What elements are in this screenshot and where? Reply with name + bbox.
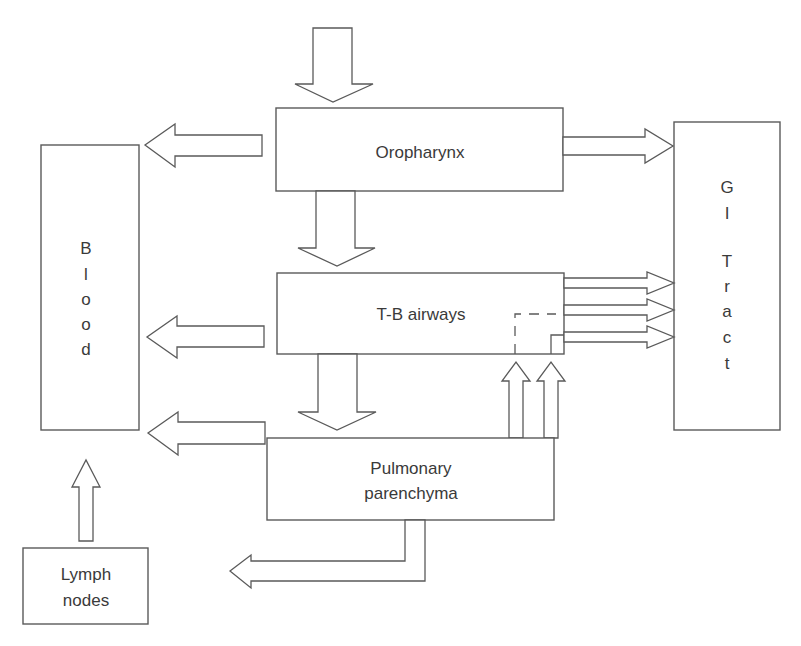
tb-airways-node: T-B airways [277,273,564,354]
lymph-nodes-node: Lymph nodes [23,548,148,624]
blood-letter: o [81,290,90,309]
pulmonary-label-line1: Pulmonary [370,459,452,478]
input-arrow-down [295,28,373,102]
gi-tract-node: G I T r a c t [674,122,780,430]
lymph-label-line2: nodes [63,591,109,610]
tb-airways-label: T-B airways [377,305,466,324]
deposition-clearance-diagram: Oropharynx B l o o d G I T r a c t T-B a… [0,0,801,646]
gi-letter: G [720,178,733,197]
pulmonary-label-line2: parenchyma [364,484,458,503]
gi-letter: a [722,302,732,321]
gi-letter: T [722,252,732,271]
tb-to-gi-arrow-3 [564,326,674,348]
gi-letter: r [724,277,730,296]
lymph-to-blood-arrow [72,460,100,541]
pulmonary-to-tb-arrow-1 [502,362,530,438]
blood-letter: d [81,340,90,359]
pulmonary-outflow-arrow [230,520,425,588]
oropharynx-node: Oropharynx [276,108,563,191]
tb-to-gi-arrow-2 [564,299,674,321]
oropharynx-to-gi-arrow [563,129,673,163]
blood-letter: l [84,265,88,284]
pulmonary-to-tb-arrow-2 [537,362,565,438]
lymph-label-line1: Lymph [61,565,111,584]
blood-letter: B [80,239,91,258]
tb-to-blood-arrow [147,316,264,358]
blood-letter: o [81,315,90,334]
pulmonary-to-blood-arrow [148,412,265,455]
tb-to-pulmonary-arrow [298,354,376,430]
blood-node: B l o o d [41,145,139,430]
oropharynx-label: Oropharynx [376,143,465,162]
pulmonary-parenchyma-node: Pulmonary parenchyma [267,438,554,520]
oropharynx-to-blood-arrow [145,124,262,167]
gi-letter: I [725,204,730,223]
gi-letter: c [723,328,732,347]
gi-letter: t [725,354,730,373]
tb-to-gi-arrow-1 [564,272,674,294]
oropharynx-to-tb-arrow [298,191,375,266]
